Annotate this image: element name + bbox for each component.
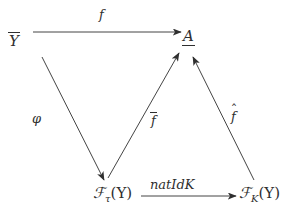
edge-label-f-bar: f <box>151 112 156 127</box>
arrow-fbar <box>108 53 179 178</box>
node-f-tau-y: ℱτ(Y) <box>93 186 132 204</box>
edge-label-natidk: natIdK <box>150 178 195 191</box>
node-y-bar: Y <box>9 32 19 49</box>
node-f-k-y-argument: (Y) <box>258 184 280 202</box>
edge-label-f-text: f <box>99 7 104 22</box>
arrow-fhat <box>193 57 254 180</box>
node-f-k-y: ℱK(Y) <box>239 186 280 204</box>
script-f-glyph: ℱ <box>93 184 105 202</box>
diagram-arrows-layer <box>0 0 298 215</box>
node-a-label: A <box>183 29 194 46</box>
node-a-underlined: A <box>183 29 194 46</box>
commutative-diagram: Y A ℱτ(Y) ℱK(Y) f φ f ˆf natIdK <box>0 0 298 215</box>
edge-label-f: f <box>99 8 104 21</box>
hat-accent-icon: ˆ <box>231 103 238 116</box>
edge-label-f-hat-text: ˆf <box>231 110 236 123</box>
edge-label-f-bar-text: f <box>151 112 156 127</box>
edge-label-f-hat: ˆf <box>231 110 236 123</box>
edge-label-natidk-text: natIdK <box>150 177 195 192</box>
node-y-bar-label: Y <box>9 32 19 49</box>
node-f-tau-y-argument: (Y) <box>111 184 133 202</box>
edge-label-phi-text: φ <box>32 111 41 126</box>
script-f-glyph: ℱ <box>239 184 251 202</box>
arrow-phi <box>42 57 104 180</box>
edge-label-phi: φ <box>32 112 41 125</box>
